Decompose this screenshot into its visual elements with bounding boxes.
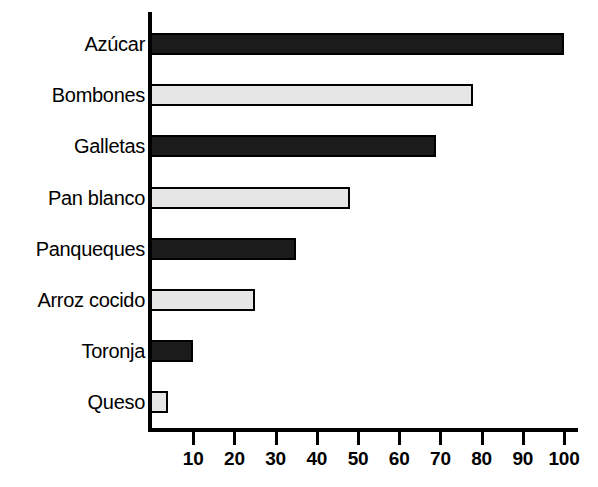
bar xyxy=(152,33,564,55)
x-tick-label: 100 xyxy=(548,447,579,470)
x-tick xyxy=(481,432,484,445)
x-tick xyxy=(439,432,442,445)
bar xyxy=(152,289,255,311)
bar xyxy=(152,135,436,157)
bar-chart: AzúcarBombonesGalletasPan blancoPanquequ… xyxy=(0,0,598,487)
x-tick xyxy=(398,432,401,445)
x-tick xyxy=(563,432,566,445)
bar xyxy=(152,391,168,413)
x-tick-label: 40 xyxy=(306,447,327,470)
category-label: Arroz cocido xyxy=(0,289,145,311)
bar xyxy=(152,238,296,260)
bar xyxy=(152,340,193,362)
x-tick xyxy=(316,432,319,445)
x-tick-label: 70 xyxy=(430,447,451,470)
category-label: Azúcar xyxy=(0,33,145,55)
y-axis-line xyxy=(148,12,152,432)
x-tick xyxy=(522,432,525,445)
category-label: Panqueques xyxy=(0,238,145,260)
bar xyxy=(152,187,350,209)
x-tick-label: 80 xyxy=(471,447,492,470)
category-label: Bombones xyxy=(0,84,145,106)
x-tick-label: 60 xyxy=(389,447,410,470)
x-tick-label: 50 xyxy=(348,447,369,470)
category-label: Toronja xyxy=(0,340,145,362)
x-axis-line xyxy=(148,428,578,432)
x-tick xyxy=(233,432,236,445)
x-tick xyxy=(357,432,360,445)
category-label: Galletas xyxy=(0,135,145,157)
x-tick-label: 20 xyxy=(224,447,245,470)
x-tick xyxy=(275,432,278,445)
x-tick xyxy=(192,432,195,445)
x-tick-label: 30 xyxy=(265,447,286,470)
category-label: Queso xyxy=(0,391,145,413)
category-label: Pan blanco xyxy=(0,187,145,209)
x-tick-label: 10 xyxy=(183,447,204,470)
bar xyxy=(152,84,473,106)
x-tick-label: 90 xyxy=(512,447,533,470)
